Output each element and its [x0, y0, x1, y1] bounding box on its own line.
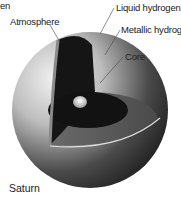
clipped-label: en [0, 0, 10, 11]
label-liquid-hydrogen: Liquid hydrogen [116, 2, 181, 13]
caption: Saturn [9, 182, 40, 194]
core [73, 96, 87, 108]
label-metallic-hydrogen: Metallic hydrogen [121, 24, 181, 35]
label-core: Core [125, 51, 145, 62]
label-atmosphere: Atmosphere [10, 16, 59, 27]
